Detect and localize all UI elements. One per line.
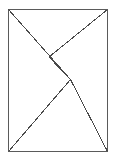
geometric-figure-canvas: Envelope-style geometric line figure Rec… bbox=[0, 0, 117, 160]
